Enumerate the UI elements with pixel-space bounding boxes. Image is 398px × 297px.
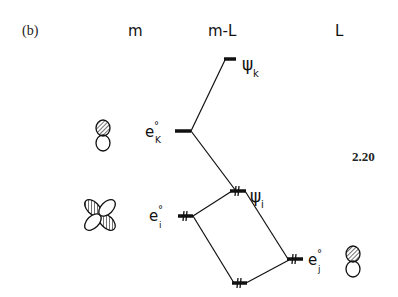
correlation-lines bbox=[191, 60, 289, 283]
figure-number: 2.20 bbox=[352, 149, 375, 164]
label-psi-k: ψ bbox=[242, 54, 253, 74]
ligand-p-orbital-icon bbox=[346, 246, 360, 277]
mo-diagram: (b) m m-L L 2.20 ψ k e K ° ψ i e bbox=[0, 0, 398, 297]
column-label-complex: m-L bbox=[208, 22, 237, 40]
metal-d-orbital-icon bbox=[72, 187, 129, 244]
label-e-j0-sup: ° bbox=[317, 248, 322, 259]
label-e-k0-sub: K bbox=[155, 135, 162, 145]
energy-levels bbox=[175, 59, 303, 283]
column-label-metal: m bbox=[128, 22, 143, 40]
label-e-i0-sub: i bbox=[159, 220, 162, 230]
label-psi-i-sub: i bbox=[261, 199, 264, 210]
label-psi-k-sub: k bbox=[253, 68, 259, 79]
electron-pairs bbox=[183, 186, 296, 288]
label-e-j0-sub: j bbox=[317, 264, 321, 274]
metal-p-orbital-icon bbox=[96, 120, 110, 151]
panel-label: (b) bbox=[22, 23, 39, 39]
level-labels: ψ k e K ° ψ i e i ° e j ° bbox=[145, 54, 322, 274]
label-e-i0: e bbox=[149, 207, 158, 225]
label-e-k0: e bbox=[145, 123, 154, 141]
label-e-i0-sup: ° bbox=[158, 204, 163, 215]
label-psi-i: ψ bbox=[250, 186, 261, 206]
label-e-j0: e bbox=[308, 251, 317, 269]
column-label-ligand: L bbox=[335, 22, 344, 40]
label-e-k0-sup: ° bbox=[154, 120, 159, 131]
